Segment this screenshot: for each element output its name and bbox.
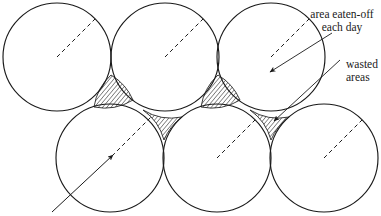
long-diagonal-group bbox=[52, 116, 152, 212]
area-eaten-off-label-line1: area eaten-off bbox=[310, 8, 373, 20]
long-diagonal-solid-segment bbox=[52, 155, 113, 212]
diagram-canvas: area eaten-off each day wasted areas bbox=[0, 0, 381, 216]
radius-marker-top-left bbox=[57, 19, 95, 57]
radius-marker-bottom-middle bbox=[217, 120, 255, 158]
wasted-area-gap-2 bbox=[143, 110, 182, 140]
wasted-areas-leader-line bbox=[274, 60, 340, 121]
wasted-area-gap-1 bbox=[94, 75, 133, 108]
wasted-areas-label-line1: wasted bbox=[346, 58, 378, 70]
circle-packing-diagram: area eaten-off each day wasted areas bbox=[0, 0, 381, 216]
radius-marker-bottom-right bbox=[324, 120, 362, 158]
radius-marker-top-middle bbox=[165, 19, 203, 57]
wasted-areas-group bbox=[94, 75, 289, 140]
area-eaten-off-leader-line bbox=[270, 33, 332, 72]
wasted-areas-label-line2: areas bbox=[346, 71, 370, 83]
long-diagonal-dashed-segment bbox=[112, 116, 152, 156]
wasted-area-gap-4 bbox=[250, 110, 289, 140]
annotation-wasted-areas: wasted areas bbox=[274, 58, 378, 121]
area-eaten-off-label-line2: each day bbox=[322, 21, 363, 34]
circles-group bbox=[3, 3, 378, 212]
